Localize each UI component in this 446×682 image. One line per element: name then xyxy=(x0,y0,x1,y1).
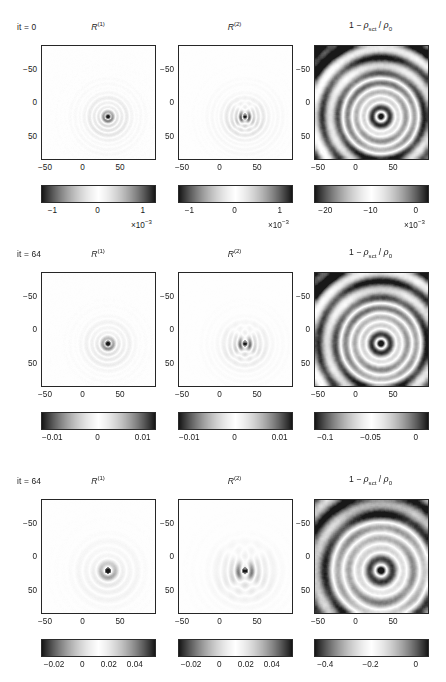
image-canvas xyxy=(315,500,428,613)
x-tick-label: 50 xyxy=(378,617,408,626)
colorbar-tick-label: 0 xyxy=(218,433,252,442)
y-tick-label: 0 xyxy=(148,98,174,107)
panel-title-symbol: R(1) xyxy=(91,249,105,259)
image-panel-R1[interactable] xyxy=(41,272,156,387)
x-tick-label: −50 xyxy=(167,390,197,399)
colorbar-rho[interactable] xyxy=(314,185,429,203)
image-panel-R1[interactable] xyxy=(41,45,156,160)
colorbar-R1[interactable] xyxy=(41,639,156,657)
colorbar-tick-label: −10 xyxy=(354,206,388,215)
y-tick-label: 50 xyxy=(148,132,174,141)
colorbar-R2[interactable] xyxy=(178,639,293,657)
y-tick-label: 0 xyxy=(284,552,310,561)
x-tick-label: 0 xyxy=(68,617,98,626)
x-tick-label: −50 xyxy=(30,163,60,172)
panel-title-R1: R(1) xyxy=(41,20,155,32)
exponent-power: −3 xyxy=(282,218,289,225)
image-panel-rho[interactable] xyxy=(314,499,429,614)
y-tick-label: 50 xyxy=(284,586,310,595)
x-tick-label: 50 xyxy=(378,163,408,172)
x-tick-label: −50 xyxy=(167,617,197,626)
colorbar-tick-label: −0.01 xyxy=(35,433,69,442)
x-tick-label: −50 xyxy=(30,617,60,626)
panel-title-symbol: R(1) xyxy=(91,22,105,32)
image-canvas xyxy=(179,273,292,386)
colorbar-tick-label: −0.05 xyxy=(354,433,388,442)
x-tick-label: 0 xyxy=(341,163,371,172)
iteration-label: it = 0 xyxy=(17,22,36,32)
y-tick-label: 0 xyxy=(11,552,37,561)
image-panel-rho[interactable] xyxy=(314,272,429,387)
x-tick-label: 50 xyxy=(242,163,272,172)
panel-row: it = 64R(1)−50050−50050−0.0100.01R(2)−50… xyxy=(0,227,446,454)
iteration-label: it = 64 xyxy=(17,249,41,259)
panel-row: it = 64R(1)−50050−50050−0.0200.020.04R(2… xyxy=(0,454,446,681)
image-panel-R1[interactable] xyxy=(41,499,156,614)
panel-title-rho: 1 − ρsct / ρ0 xyxy=(314,474,427,486)
x-tick-label: 0 xyxy=(68,163,98,172)
y-tick-label: 0 xyxy=(148,325,174,334)
colorbar-tick-label: 0 xyxy=(218,206,252,215)
x-tick-label: 0 xyxy=(205,163,235,172)
panel-title-symbol: 1 − ρsct / ρ0 xyxy=(349,474,392,484)
colorbar-tick-label: −0.2 xyxy=(354,660,388,669)
colorbar-R1[interactable] xyxy=(41,185,156,203)
image-panel-R2[interactable] xyxy=(178,499,293,614)
panel-title-R2: R(2) xyxy=(178,247,291,259)
iteration-label: it = 64 xyxy=(17,476,41,486)
y-tick-label: −50 xyxy=(11,519,37,528)
colorbar-rho[interactable] xyxy=(314,639,429,657)
image-canvas xyxy=(42,273,155,386)
image-panel-rho[interactable] xyxy=(314,45,429,160)
y-tick-label: −50 xyxy=(148,519,174,528)
figure-canvas: it = 0R(1)−50050−50050−101×10−3R(2)−5005… xyxy=(0,0,446,682)
y-tick-label: −50 xyxy=(11,65,37,74)
panel-title-symbol: R(2) xyxy=(228,22,242,32)
panel-title-symbol: R(2) xyxy=(228,476,242,486)
colorbar-gradient xyxy=(42,413,155,429)
colorbar-tick-label: 0.04 xyxy=(118,660,152,669)
colorbar-rho[interactable] xyxy=(314,412,429,430)
y-tick-label: 50 xyxy=(11,586,37,595)
x-tick-label: 0 xyxy=(68,390,98,399)
colorbar-tick-label: 1 xyxy=(126,206,160,215)
image-panel-R2[interactable] xyxy=(178,272,293,387)
panel-title-R1: R(1) xyxy=(41,247,155,259)
colorbar-gradient xyxy=(315,186,428,202)
colorbar-tick-label: 0 xyxy=(399,433,433,442)
y-tick-label: 0 xyxy=(148,552,174,561)
panel-title-R1: R(1) xyxy=(41,474,155,486)
image-canvas xyxy=(42,500,155,613)
y-tick-label: −50 xyxy=(284,292,310,301)
y-tick-label: −50 xyxy=(284,519,310,528)
colorbar-gradient xyxy=(315,413,428,429)
x-tick-label: 0 xyxy=(205,390,235,399)
image-canvas xyxy=(315,273,428,386)
image-panel-R2[interactable] xyxy=(178,45,293,160)
y-tick-label: 0 xyxy=(11,98,37,107)
colorbar-R1[interactable] xyxy=(41,412,156,430)
panel-title-R2: R(2) xyxy=(178,474,291,486)
colorbar-gradient xyxy=(179,186,292,202)
image-canvas xyxy=(179,500,292,613)
exponent-power: −3 xyxy=(418,218,425,225)
y-tick-label: 50 xyxy=(11,132,37,141)
colorbar-tick-label: 0.01 xyxy=(263,433,297,442)
panel-title-rho: 1 − ρsct / ρ0 xyxy=(314,20,427,32)
y-tick-label: 50 xyxy=(284,132,310,141)
x-tick-label: −50 xyxy=(30,390,60,399)
colorbar-tick-label: −1 xyxy=(172,206,206,215)
x-tick-label: −50 xyxy=(167,163,197,172)
colorbar-tick-label: −0.1 xyxy=(308,433,342,442)
y-tick-label: 50 xyxy=(148,359,174,368)
colorbar-R2[interactable] xyxy=(178,412,293,430)
x-tick-label: −50 xyxy=(303,390,333,399)
colorbar-R2[interactable] xyxy=(178,185,293,203)
y-tick-label: −50 xyxy=(11,292,37,301)
colorbar-gradient xyxy=(179,413,292,429)
panel-title-R2: R(2) xyxy=(178,20,291,32)
panel-title-symbol: R(2) xyxy=(228,249,242,259)
colorbar-tick-label: −0.01 xyxy=(172,433,206,442)
y-tick-label: 0 xyxy=(11,325,37,334)
image-canvas xyxy=(315,46,428,159)
